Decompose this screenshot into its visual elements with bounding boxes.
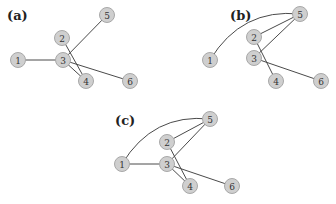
panel-label: (c) (115, 113, 135, 128)
node-label: 3 (60, 56, 66, 66)
node-2: 2 (247, 30, 262, 45)
node-label: 4 (273, 77, 279, 87)
node-4: 4 (269, 74, 284, 89)
node-6: 6 (225, 179, 240, 194)
panel-label: (b) (230, 8, 251, 23)
node-label: 2 (59, 34, 65, 44)
node-4: 4 (79, 74, 94, 89)
panel-c: 123456(c) (115, 112, 240, 194)
edge-3-6 (63, 60, 130, 81)
edge-3-6 (254, 58, 321, 81)
node-6: 6 (314, 74, 329, 89)
node-label: 2 (164, 138, 170, 148)
node-6: 6 (123, 74, 138, 89)
node-3: 3 (247, 51, 262, 66)
node-3: 3 (56, 53, 71, 68)
node-label: 1 (207, 56, 213, 66)
node-label: 2 (251, 33, 257, 43)
node-label: 6 (318, 77, 324, 87)
node-2: 2 (160, 135, 175, 150)
node-label: 4 (187, 182, 193, 192)
node-4: 4 (183, 179, 198, 194)
panel-b: 123456(b) (203, 7, 329, 89)
node-label: 4 (83, 77, 89, 87)
node-label: 1 (15, 56, 21, 66)
panel-a: 123456(a) (7, 8, 138, 89)
graph-diagram: 123456(a)123456(b)123456(c) (0, 0, 336, 204)
node-1: 1 (11, 53, 26, 68)
edge-3-6 (167, 164, 232, 186)
node-label: 6 (127, 77, 133, 87)
node-3: 3 (160, 157, 175, 172)
node-5: 5 (100, 8, 115, 23)
node-label: 5 (207, 115, 213, 125)
node-label: 3 (164, 160, 170, 170)
node-1: 1 (115, 157, 130, 172)
node-1: 1 (203, 53, 218, 68)
node-label: 1 (119, 160, 125, 170)
node-label: 5 (297, 10, 303, 20)
panel-label: (a) (7, 8, 28, 23)
node-label: 6 (229, 182, 235, 192)
node-5: 5 (203, 112, 218, 127)
node-2: 2 (55, 31, 70, 46)
node-label: 3 (251, 54, 257, 64)
node-5: 5 (293, 7, 308, 22)
node-label: 5 (104, 11, 110, 21)
